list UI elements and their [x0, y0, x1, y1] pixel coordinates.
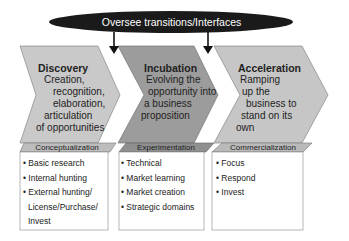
- arrow-to-incubation-head: [109, 46, 119, 54]
- discovery-list: • Basic research • Internal hunting • Ex…: [23, 156, 98, 229]
- list-item: • External hunting/: [23, 185, 98, 200]
- list-item: • Market creation: [121, 185, 194, 200]
- list-item: License/Purchase/: [23, 200, 98, 215]
- list-item: • Market learning: [121, 171, 194, 186]
- incubation-text-block: Incubation Evolving the opportunity into…: [144, 62, 224, 122]
- incubation-desc-3: a business: [144, 98, 224, 110]
- list-item: Invest: [23, 214, 98, 229]
- oversee-label: Oversee transitions/Interfaces: [50, 12, 293, 32]
- discovery-text-block: Discovery Creation, recognition, elabora…: [38, 62, 118, 134]
- acceleration-desc-2: up the: [238, 86, 328, 98]
- list-item: • Invest: [216, 185, 255, 200]
- discovery-title: Discovery: [38, 62, 118, 74]
- list-item: • Strategic domains: [121, 200, 194, 215]
- incubation-title: Incubation: [144, 62, 224, 74]
- list-item: • Technical: [121, 156, 194, 171]
- discovery-desc-4: articulation: [38, 110, 118, 122]
- incubation-phase-label: Experimentation: [124, 143, 208, 153]
- arrow-to-acceleration-head: [203, 46, 213, 54]
- discovery-desc-1: Creation,: [38, 74, 118, 86]
- incubation-desc-2: opportunity into: [144, 86, 224, 98]
- incubation-desc-1: Evolving the: [144, 74, 224, 86]
- acceleration-desc-3: business to: [238, 98, 328, 110]
- list-item: • Focus: [216, 156, 255, 171]
- discovery-desc-3: elaboration,: [38, 98, 118, 110]
- acceleration-list: • Focus • Respond • Invest: [216, 156, 255, 200]
- discovery-desc-2: recognition,: [38, 86, 118, 98]
- list-item: • Respond: [216, 171, 255, 186]
- discovery-desc-5: of opportunities: [36, 122, 118, 134]
- acceleration-desc-1: Ramping: [238, 74, 328, 86]
- acceleration-title: Acceleration: [238, 62, 328, 74]
- acceleration-text-block: Acceleration Ramping up the business to …: [238, 62, 328, 134]
- acceleration-desc-5: own: [236, 122, 328, 134]
- list-item: • Basic research: [23, 156, 98, 171]
- list-item: • Internal hunting: [23, 171, 98, 186]
- incubation-list: • Technical • Market learning • Market c…: [121, 156, 194, 214]
- acceleration-phase-label: Commercialization: [218, 143, 308, 153]
- acceleration-desc-4: stand on its: [238, 110, 328, 122]
- discovery-phase-label: Conceptualization: [24, 143, 110, 153]
- incubation-desc-4: proposition: [141, 110, 224, 122]
